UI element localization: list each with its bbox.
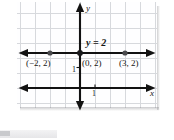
figure-container: y x y = 2 (−2, 2) (0, 2) (3, 2) 1 1 (0, 0, 174, 140)
point-label-3-2: (3, 2) (119, 59, 139, 68)
point-label-neg2-2: (−2, 2) (26, 59, 51, 68)
y-unit-tick-label: 1 (72, 66, 76, 74)
grid-line-vertical (20, 2, 21, 108)
plate-shadow-right (157, 6, 160, 110)
plate-shadow-bottom (20, 107, 159, 111)
grid-line-horizontal (17, 103, 157, 104)
grid-line-vertical (80, 2, 81, 108)
bottom-ui-strip-tab (0, 131, 10, 136)
grid-line-vertical (140, 2, 141, 108)
coordinate-grid (17, 2, 157, 108)
grid-line-vertical (155, 2, 156, 108)
y-axis-label: y (86, 4, 90, 13)
x-axis-label: x (150, 89, 154, 98)
figure-plate (17, 2, 157, 108)
grid-line-horizontal (17, 13, 157, 14)
grid-line-vertical (125, 2, 126, 108)
grid-line-vertical (50, 2, 51, 108)
grid-line-horizontal (17, 73, 157, 74)
point-label-0-2: (0, 2) (82, 59, 102, 68)
grid-line-vertical (110, 2, 111, 108)
grid-line-vertical (65, 2, 66, 108)
equation-label: y = 2 (86, 38, 106, 48)
x-unit-tick-label: 1 (92, 90, 96, 98)
grid-line-horizontal (17, 88, 157, 89)
grid-line-vertical (35, 2, 36, 108)
grid-line-horizontal (17, 28, 157, 29)
